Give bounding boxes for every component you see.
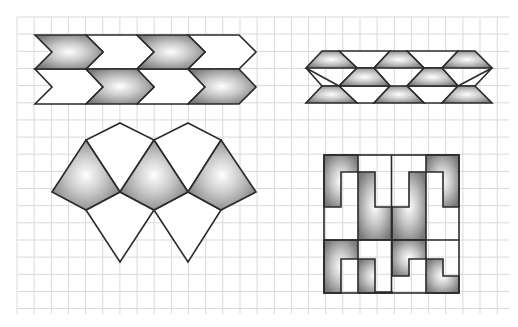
L-hook-shaded (426, 259, 459, 293)
L-hook-shaded (392, 240, 426, 276)
trapezoid-shaded (407, 68, 458, 86)
L-hook-shaded (324, 155, 358, 207)
L-hook-shaded (358, 259, 392, 293)
trapezoid-blank (306, 68, 339, 86)
tessellation-figure (0, 0, 518, 327)
pattern-layer (35, 35, 492, 293)
trapezoid-shaded (339, 68, 390, 86)
trapezoid-tessellation (306, 51, 492, 103)
L-hook-shaded (324, 240, 358, 293)
key-pattern-square (324, 155, 459, 293)
L-hook-shaded (426, 155, 459, 207)
chevron-tessellation (35, 35, 256, 104)
